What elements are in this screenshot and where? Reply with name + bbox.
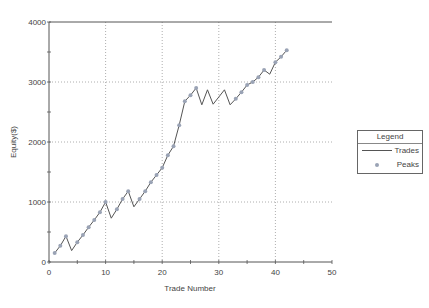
peak-marker: [155, 173, 159, 177]
peak-marker: [262, 68, 266, 72]
marker-swatch-icon: [375, 163, 379, 167]
x-tick-label: 20: [158, 268, 167, 277]
legend-entry-peaks: Peaks: [358, 158, 422, 172]
peak-marker: [177, 123, 181, 127]
peak-marker: [98, 210, 102, 214]
peak-marker: [81, 233, 85, 237]
tick-labels: 0102030405001000200030004000: [28, 18, 337, 277]
peak-marker: [104, 200, 108, 204]
legend-label-trades: Trades: [394, 144, 419, 158]
y-tick-label: 2000: [28, 138, 46, 147]
peak-marker: [138, 197, 142, 201]
peak-marker: [285, 48, 289, 52]
peak-marker: [121, 197, 125, 201]
y-tick-label: 3000: [28, 78, 46, 87]
x-axis-label: Trade Number: [164, 284, 216, 293]
x-tick-label: 50: [328, 268, 337, 277]
legend-entry-trades: Trades: [358, 144, 422, 158]
grid-lines: [49, 22, 332, 262]
y-tick-label: 0: [42, 258, 47, 267]
peak-marker: [149, 180, 153, 184]
peak-marker: [53, 251, 57, 255]
peak-marker: [126, 189, 130, 193]
peak-marker: [143, 189, 147, 193]
peak-marker: [166, 153, 170, 157]
peak-marker: [172, 144, 176, 148]
peak-marker: [115, 207, 119, 211]
peak-marker: [239, 90, 243, 94]
peak-marker: [279, 55, 283, 59]
peak-marker: [183, 99, 187, 103]
peak-marker: [234, 97, 238, 101]
peak-marker: [64, 234, 68, 238]
y-tick-label: 4000: [28, 18, 46, 27]
peak-marker: [75, 240, 79, 244]
line-swatch-icon: [362, 150, 392, 151]
legend-label-peaks: Peaks: [397, 158, 419, 172]
y-axis-label: Equity($): [9, 126, 18, 158]
peak-marker: [87, 225, 91, 229]
x-tick-label: 30: [214, 268, 223, 277]
legend: Legend Trades Peaks: [357, 130, 423, 174]
x-tick-label: 40: [271, 268, 280, 277]
peak-marker: [273, 60, 277, 64]
peak-marker: [251, 80, 255, 84]
x-tick-label: 10: [101, 268, 110, 277]
peak-marker: [245, 83, 249, 87]
legend-title: Legend: [358, 131, 422, 144]
peak-marker: [92, 218, 96, 222]
peak-marker: [58, 244, 62, 248]
y-tick-label: 1000: [28, 198, 46, 207]
peak-marker: [194, 86, 198, 90]
peak-marker: [160, 166, 164, 170]
peak-marker: [256, 75, 260, 79]
peak-marker: [189, 93, 193, 97]
x-tick-label: 0: [47, 268, 52, 277]
